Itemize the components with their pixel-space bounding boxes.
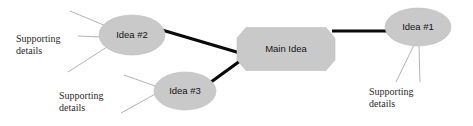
main-idea-label: Main Idea [265,43,307,54]
supporting-details-idea3-line1: Supporting [59,90,103,101]
supporting-details-idea3-line2: details [59,102,85,113]
supporting-details-idea2-line2: details [16,45,42,56]
idea-3-label: Idea #3 [169,85,201,96]
link-idea2-to-main [162,30,240,53]
detail-link-idea2-bottom [68,47,107,72]
detail-link-idea3-top [124,75,158,87]
supporting-details-idea1-line1: Supporting [369,86,413,97]
link-idea3-to-main [211,61,240,82]
node-idea-2[interactable]: Idea #2 [99,15,165,55]
diagram-canvas: Main Idea Idea #1 Idea #2 Idea #3 Suppor… [0,0,473,126]
detail-link-idea1-left [396,45,414,82]
supporting-details-idea-1: Supporting details [369,86,413,109]
idea-2-label: Idea #2 [116,29,148,40]
detail-link-idea2-top [70,11,106,26]
node-idea-3[interactable]: Idea #3 [154,72,216,110]
supporting-details-idea-2: Supporting details [16,33,60,56]
detail-link-idea3-bottom [121,92,159,113]
supporting-details-idea-3: Supporting details [59,90,103,113]
node-main-idea[interactable]: Main Idea [237,28,335,71]
detail-link-idea1-right [419,46,420,82]
supporting-details-idea1-line2: details [369,98,395,109]
supporting-details-idea2-line1: Supporting [16,33,60,44]
idea-1-label: Idea #1 [402,21,434,32]
node-idea-1[interactable]: Idea #1 [385,8,451,46]
concept-map-diagram: Main Idea Idea #1 Idea #2 Idea #3 Suppor… [0,0,473,126]
detail-link-idea2-middle [78,36,101,37]
